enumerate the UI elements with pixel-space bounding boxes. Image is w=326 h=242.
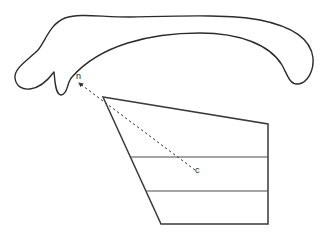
- quadrilateral-shape: [103, 97, 268, 224]
- curved-outline-shape: [15, 15, 313, 95]
- label-c: c: [195, 166, 200, 175]
- label-n: n: [76, 72, 81, 81]
- diagram-canvas: [0, 0, 326, 242]
